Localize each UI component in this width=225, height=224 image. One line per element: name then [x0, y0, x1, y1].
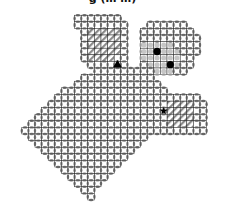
- wall-segment: [155, 34, 160, 36]
- wall-segment: [56, 159, 61, 161]
- wall-segment: [87, 175, 89, 180]
- wall-segment: [146, 115, 148, 120]
- wall-segment: [186, 128, 188, 133]
- wall-segment: [148, 80, 153, 82]
- wall-segment: [205, 115, 207, 120]
- wall-segment: [80, 188, 82, 193]
- wall-segment: [100, 148, 102, 153]
- wall-segment: [89, 100, 94, 102]
- wall-segment: [80, 43, 82, 48]
- wall-segment: [133, 109, 135, 114]
- wall-segment: [56, 146, 61, 148]
- wall-segment: [128, 126, 133, 128]
- wall-segment: [126, 49, 128, 54]
- wall-segment: [82, 153, 87, 155]
- wall-segment: [146, 29, 148, 34]
- wall-segment: [166, 122, 168, 127]
- wall-segment: [76, 186, 81, 188]
- gray-cell-mark: [141, 56, 146, 61]
- wall-segment: [194, 106, 199, 108]
- wall-segment: [80, 49, 82, 54]
- wall-segment: [95, 172, 100, 174]
- wall-segment: [62, 166, 67, 168]
- wall-segment: [148, 21, 153, 23]
- wall-segment: [135, 126, 140, 128]
- wall-segment: [186, 69, 188, 74]
- wall-segment: [80, 135, 82, 140]
- wall-segment: [146, 109, 148, 114]
- wall-segment: [100, 181, 102, 186]
- wall-segment: [153, 95, 155, 100]
- wall-segment: [179, 43, 181, 48]
- wall-segment: [102, 21, 107, 23]
- wall-segment: [133, 95, 135, 100]
- gray-cell-mark: [174, 56, 179, 61]
- wall-segment: [175, 100, 180, 102]
- gray-cell-mark: [161, 62, 166, 67]
- wall-segment: [135, 100, 140, 102]
- wall-segment: [122, 47, 127, 49]
- wall-segment: [87, 168, 89, 173]
- wall-segment: [179, 95, 181, 100]
- wall-segment: [139, 69, 141, 74]
- wall-segment: [89, 93, 94, 95]
- wall-segment: [188, 93, 193, 95]
- grid-cell: [108, 35, 115, 42]
- wall-segment: [34, 128, 36, 133]
- grid-cell: [174, 108, 181, 115]
- wall-segment: [153, 102, 155, 107]
- wall-segment: [80, 122, 82, 127]
- wall-segment: [67, 142, 69, 147]
- wall-segment: [109, 80, 114, 82]
- wall-segment: [146, 69, 148, 74]
- wall-segment: [199, 95, 201, 100]
- wall-segment: [89, 67, 94, 69]
- dot-2-icon: [167, 61, 174, 68]
- wall-segment: [40, 128, 42, 133]
- wall-segment: [148, 133, 153, 135]
- wall-segment: [87, 82, 89, 87]
- wall-segment: [95, 73, 100, 75]
- wall-segment: [47, 109, 49, 114]
- wall-segment: [73, 95, 75, 100]
- wall-segment: [205, 122, 207, 127]
- wall-segment: [146, 82, 148, 87]
- wall-segment: [67, 115, 69, 120]
- wall-segment: [73, 128, 75, 133]
- wall-segment: [87, 115, 89, 120]
- wall-segment: [76, 146, 81, 148]
- wall-segment: [102, 106, 107, 108]
- wall-segment: [102, 153, 107, 155]
- wall-segment: [73, 102, 75, 107]
- wall-segment: [60, 168, 62, 173]
- wall-segment: [54, 115, 56, 120]
- wall-segment: [126, 56, 128, 61]
- wall-segment: [69, 146, 74, 148]
- wall-segment: [188, 34, 193, 36]
- wall-segment: [199, 109, 201, 114]
- wall-segment: [135, 120, 140, 122]
- wall-segment: [133, 69, 135, 74]
- wall-segment: [148, 27, 153, 29]
- wall-segment: [69, 126, 74, 128]
- wall-segment: [133, 89, 135, 94]
- wall-segment: [115, 153, 120, 155]
- wall-segment: [148, 120, 153, 122]
- wall-segment: [115, 159, 120, 161]
- wall-segment: [168, 133, 173, 135]
- wall-segment: [82, 159, 87, 161]
- wall-segment: [106, 89, 108, 94]
- wall-segment: [87, 89, 89, 94]
- wall-segment: [115, 80, 120, 82]
- wall-segment: [93, 181, 95, 186]
- wall-segment: [146, 62, 148, 67]
- wall-segment: [109, 159, 114, 161]
- wall-segment: [82, 113, 87, 115]
- wall-segment: [87, 148, 89, 153]
- wall-segment: [155, 93, 160, 95]
- wall-segment: [95, 186, 100, 188]
- wall-segment: [102, 67, 107, 69]
- wall-segment: [54, 122, 56, 127]
- wall-segment: [76, 21, 81, 23]
- wall-segment: [47, 142, 49, 147]
